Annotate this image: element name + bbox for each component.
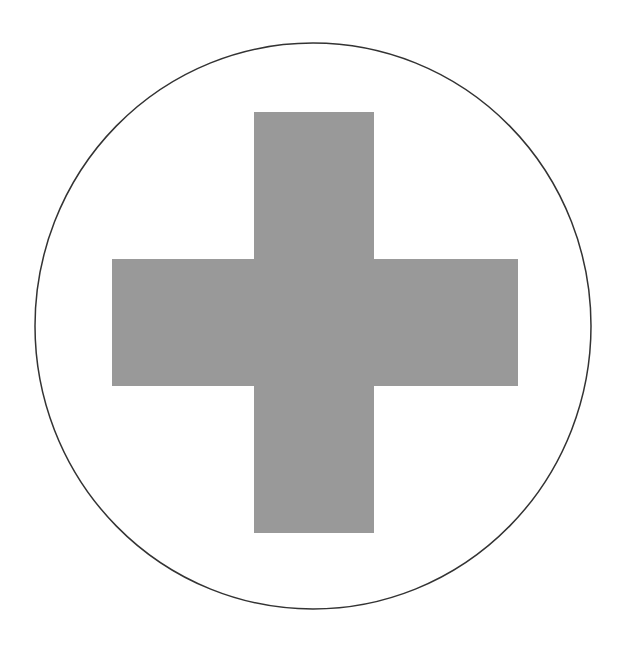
cross-in-circle-figure — [0, 0, 620, 648]
cross-horizontal-bar — [112, 259, 518, 386]
